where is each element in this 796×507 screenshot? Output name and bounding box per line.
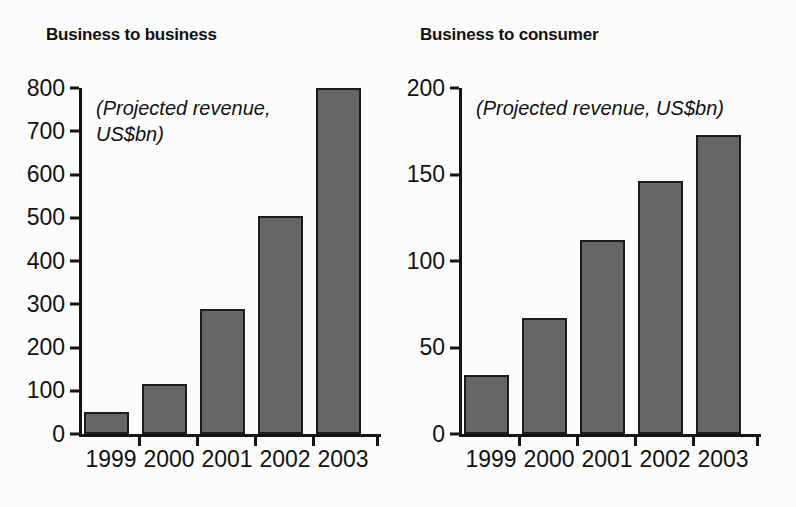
x-axis-tick: [312, 437, 315, 446]
y-axis-tick-label: 700: [27, 119, 65, 142]
x-axis-tick: [138, 437, 141, 446]
y-axis-tick: 50: [450, 346, 459, 349]
bar: [142, 384, 187, 434]
x-label-group: 19992000200120022003: [76, 448, 382, 478]
y-axis-tick-label: 50: [419, 336, 445, 359]
y-axis-tick: 100: [450, 260, 459, 263]
bar: [464, 375, 509, 434]
x-axis-tick: [634, 437, 637, 446]
y-axis-tick-label: 150: [407, 163, 445, 186]
bar-group: [82, 88, 372, 434]
x-axis-tick-label: 2002: [636, 448, 694, 471]
x-axis-tick: [376, 437, 379, 446]
bar: [522, 318, 567, 434]
bar: [696, 135, 741, 434]
y-axis-tick: 0: [70, 433, 79, 436]
y-axis-tick-label: 300: [27, 292, 65, 315]
bar-group: [462, 88, 752, 434]
x-axis-tick: [756, 437, 759, 446]
chart-title-business-to-business: Business to business: [46, 25, 217, 45]
y-axis-tick-label: 0: [52, 422, 65, 445]
x-axis-tick-label: 1999: [82, 448, 140, 471]
x-axis-tick-label: 1999: [462, 448, 520, 471]
y-axis-tick: 0: [450, 433, 459, 436]
y-axis-tick: 400: [70, 260, 79, 263]
x-axis-line: [79, 434, 381, 437]
y-axis-tick: 100: [70, 389, 79, 392]
x-axis-tick: [692, 437, 695, 446]
y-axis-tick: 200: [70, 346, 79, 349]
bar: [258, 216, 303, 434]
x-axis-tick-label: 2000: [140, 448, 198, 471]
y-axis-tick: 300: [70, 303, 79, 306]
x-axis-tick-label: 2003: [314, 448, 372, 471]
y-axis-tick-label: 600: [27, 163, 65, 186]
y-axis-tick-label: 400: [27, 249, 65, 272]
x-axis-tick-label: 2001: [198, 448, 256, 471]
chart-panel-business-to-consumer: Business to consumer (Projected revenue,…: [400, 0, 796, 507]
bar: [638, 181, 683, 434]
x-axis-tick-label: 2002: [256, 448, 314, 471]
y-axis-tick-label: 800: [27, 76, 65, 99]
bar: [200, 309, 245, 434]
x-label-group: 19992000200120022003: [456, 448, 762, 478]
plot-area-business-to-consumer: (Projected revenue, US$bn) 050100150200 …: [462, 88, 752, 434]
x-axis-tick: [576, 437, 579, 446]
y-axis-tick: 700: [70, 130, 79, 133]
y-axis-tick-label: 100: [27, 379, 65, 402]
y-axis-tick-label: 0: [432, 422, 445, 445]
y-axis-tick-label: 200: [407, 76, 445, 99]
x-axis-tick-label: 2003: [694, 448, 752, 471]
chart-title-business-to-consumer: Business to consumer: [420, 25, 598, 45]
bar: [316, 88, 361, 434]
bar: [580, 240, 625, 434]
y-axis-tick: 800: [70, 87, 79, 90]
chart-page: Business to business (Projected revenue,…: [0, 0, 796, 507]
x-axis-tick: [196, 437, 199, 446]
y-axis-tick: 500: [70, 216, 79, 219]
x-axis-tick-label: 2000: [520, 448, 578, 471]
y-axis-tick-label: 500: [27, 206, 65, 229]
x-axis-tick: [518, 437, 521, 446]
y-axis-tick: 200: [450, 87, 459, 90]
y-axis-tick-label: 100: [407, 249, 445, 272]
x-axis-line: [459, 434, 761, 437]
plot-area-business-to-business: (Projected revenue, US$bn) 0100200300400…: [82, 88, 372, 434]
y-axis-tick: 150: [450, 173, 459, 176]
y-axis-tick: 600: [70, 173, 79, 176]
x-axis-tick-label: 2001: [578, 448, 636, 471]
x-axis-tick: [254, 437, 257, 446]
chart-panel-business-to-business: Business to business (Projected revenue,…: [0, 0, 400, 507]
bar: [84, 412, 129, 434]
y-axis-tick-label: 200: [27, 336, 65, 359]
